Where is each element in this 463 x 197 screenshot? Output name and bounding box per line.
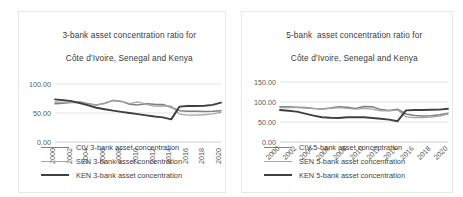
legend-label: KEN 5-bank asset concentration bbox=[299, 171, 405, 180]
y-tick-label: 100.00 bbox=[254, 97, 276, 106]
legend-line-icon bbox=[41, 147, 69, 148]
chart-title-line1: 3-bank asset concentration ratio for bbox=[62, 30, 196, 40]
legend-line-icon bbox=[41, 174, 69, 176]
legend-5-bank: CIV 5-bank asset concentrationSEN 5-bank… bbox=[242, 140, 452, 182]
legend-label: SEN 5-bank asset concentration bbox=[299, 157, 405, 166]
chart-title-3-bank: 3-bank asset concentration ratio for Côt… bbox=[19, 12, 225, 76]
legend-label: KEN 3-bank asset concentration bbox=[76, 171, 182, 180]
y-tick-label: 150.00 bbox=[254, 77, 276, 86]
series-line bbox=[280, 108, 448, 120]
legend-item[interactable]: KEN 3-bank asset concentration bbox=[19, 168, 225, 182]
chart-title-line2: Côte d’Ivoire, Senegal and Kenya bbox=[291, 53, 418, 63]
chart-3-bank: 3-bank asset concentration ratio for Côt… bbox=[18, 11, 226, 193]
y-tick-label: 50.00 bbox=[258, 117, 276, 126]
legend-item[interactable]: SEN 3-bank asset concentration bbox=[19, 154, 225, 168]
legend-3-bank: CIV 3-bank asset concentrationSEN 3-bank… bbox=[19, 140, 225, 182]
y-tick-label: 50.00 bbox=[33, 108, 51, 117]
chart-title-5-bank: 5-bank asset concentration ratio for Côt… bbox=[242, 12, 452, 76]
legend-line-icon bbox=[264, 147, 292, 148]
figure-two-line-charts: 3-bank asset concentration ratio for Côt… bbox=[0, 0, 463, 197]
legend-item[interactable]: CIV 3-bank asset concentration bbox=[19, 140, 225, 154]
y-tick-label: 100.00 bbox=[29, 79, 51, 88]
legend-label: CIV 5-bank asset concentration bbox=[299, 143, 402, 152]
legend-item[interactable]: KEN 5-bank asset concentration bbox=[242, 168, 452, 182]
legend-line-icon bbox=[264, 161, 292, 162]
legend-line-icon bbox=[264, 174, 292, 176]
chart-5-bank: 5-bank asset concentration ratio for Côt… bbox=[241, 11, 453, 193]
legend-label: SEN 3-bank asset concentration bbox=[76, 157, 182, 166]
legend-item[interactable]: CIV 5-bank asset concentration bbox=[242, 140, 452, 154]
legend-item[interactable]: SEN 5-bank asset concentration bbox=[242, 154, 452, 168]
chart-title-line2: Côte d’Ivoire, Senegal and Kenya bbox=[66, 53, 193, 63]
legend-label: CIV 3-bank asset concentration bbox=[76, 143, 179, 152]
legend-line-icon bbox=[41, 161, 69, 162]
chart-title-line1: 5-bank asset concentration ratio for bbox=[286, 30, 422, 40]
